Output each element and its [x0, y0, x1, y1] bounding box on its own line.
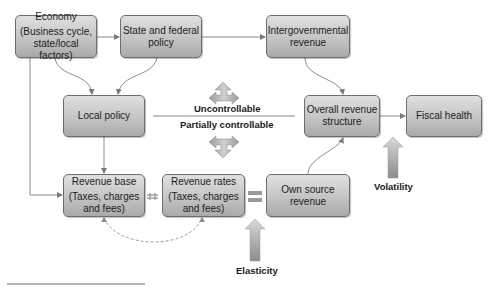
node-overall-revenue: Overall revenue structure [304, 95, 380, 137]
volatility-arrow-icon [383, 137, 403, 178]
node-revenue-base: Revenue base (Taxes, charges and fees) [63, 174, 145, 217]
arrow-state-to-local [118, 58, 157, 94]
arrow-economy-to-revbase [30, 58, 62, 195]
arrow-economy-to-local [55, 58, 92, 94]
node-own-source: Own source revenue [266, 174, 350, 217]
node-overall-revenue-title: Overall revenue structure [305, 104, 379, 128]
node-revenue-rates-sub: (Taxes, charges and fees) [163, 191, 244, 215]
dashed-feedback-arc [104, 218, 202, 242]
arrow-intergov-to-overall [305, 58, 343, 94]
node-fiscal-health: Fiscal health [406, 95, 482, 137]
elasticity-arrow-icon [245, 219, 265, 261]
node-intergovernmental-title: Intergovernmental revenue [267, 25, 349, 49]
uncontrollable-arrow-icon [209, 82, 239, 104]
node-own-source-title: Own source revenue [267, 184, 349, 208]
partially-controllable-arrow-icon [209, 136, 239, 158]
node-revenue-rates-title: Revenue rates [171, 176, 236, 188]
equals-icon [248, 191, 262, 202]
node-local-policy-title: Local policy [78, 110, 130, 122]
interaction-cross-icon [147, 193, 158, 200]
node-revenue-base-sub: (Taxes, charges and fees) [64, 191, 144, 215]
label-uncontrollable: Uncontrollable [194, 103, 261, 114]
label-volatility: Volatility [374, 181, 413, 192]
node-economy-title: Economy [35, 11, 77, 23]
node-economy: Economy (Business cycle, state/local fac… [15, 15, 97, 58]
label-partially-controllable: Partially controllable [180, 119, 273, 130]
node-revenue-base-title: Revenue base [72, 176, 137, 188]
node-state-federal-title: State and federal policy [121, 25, 201, 49]
node-fiscal-health-title: Fiscal health [416, 110, 472, 122]
label-elasticity: Elasticity [236, 265, 278, 276]
arrow-own-to-overall [308, 138, 343, 174]
node-local-policy: Local policy [63, 95, 145, 137]
node-intergovernmental: Intergovernmental revenue [266, 15, 350, 58]
node-revenue-rates: Revenue rates (Taxes, charges and fees) [162, 174, 245, 217]
node-economy-sub: (Business cycle, state/local factors) [16, 26, 96, 62]
node-state-federal: State and federal policy [120, 15, 202, 58]
